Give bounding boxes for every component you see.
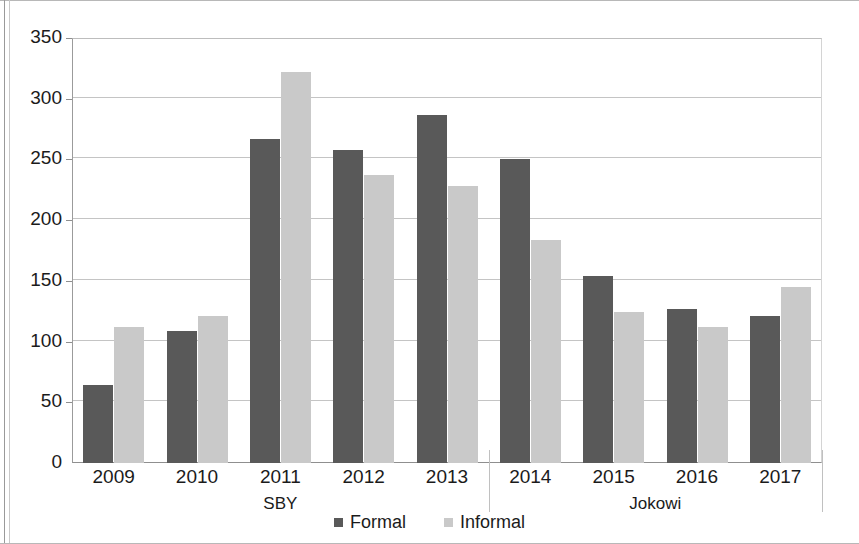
scan-border-left (4, 0, 5, 544)
bar-informal-2012 (364, 175, 394, 463)
bar-formal-2017 (750, 316, 780, 463)
bar-informal-2016 (698, 327, 728, 463)
legend-label-formal: Formal (350, 512, 406, 533)
y-axis-tick-label-350: 350 (8, 26, 62, 48)
y-axis-tick-label-50: 50 (8, 390, 62, 412)
legend-entry-formal: Formal (334, 512, 406, 533)
group-label-jokowi: Jokowi (489, 494, 822, 514)
y-axis-tick-label-100: 100 (8, 330, 62, 352)
group-separator-jokowi (489, 450, 490, 512)
chart-legend: FormalInformal (0, 512, 859, 533)
bar-formal-2014 (500, 159, 530, 463)
x-axis-tick-label-2009: 2009 (72, 466, 155, 488)
x-axis-tick-label-2013: 2013 (405, 466, 488, 488)
bar-formal-2016 (667, 309, 697, 463)
bar-informal-2011 (281, 72, 311, 463)
x-axis-tick-label-2016: 2016 (655, 466, 738, 488)
x-axis-tick-label-2010: 2010 (155, 466, 238, 488)
bars-layer (72, 38, 822, 463)
x-axis-tick-label-2012: 2012 (322, 466, 405, 488)
bar-informal-2017 (781, 287, 811, 463)
bar-formal-2010 (167, 331, 197, 463)
bar-chart-figure: 050100150200250300350 200920102011201220… (0, 0, 859, 544)
group-separator-end (822, 450, 823, 512)
y-axis-tick-label-150: 150 (8, 269, 62, 291)
y-axis-tick-label-300: 300 (8, 87, 62, 109)
bar-formal-2011 (250, 139, 280, 463)
scan-border-top (0, 0, 859, 1)
bar-informal-2015 (614, 312, 644, 463)
bar-formal-2015 (583, 276, 613, 463)
x-axis-tick-label-2011: 2011 (239, 466, 322, 488)
legend-swatch-formal-icon (334, 518, 343, 527)
legend-entry-informal: Informal (444, 512, 525, 533)
bar-formal-2009 (83, 385, 113, 463)
bar-informal-2013 (448, 186, 478, 463)
bar-informal-2010 (198, 316, 228, 463)
x-axis-tick-label-2015: 2015 (572, 466, 655, 488)
y-axis-tick-label-200: 200 (8, 208, 62, 230)
bar-informal-2009 (114, 327, 144, 463)
x-axis-tick-label-2017: 2017 (739, 466, 822, 488)
y-axis-tick-label-250: 250 (8, 147, 62, 169)
bar-formal-2012 (333, 150, 363, 463)
bar-formal-2013 (417, 115, 447, 464)
group-label-sby: SBY (72, 494, 489, 514)
legend-label-informal: Informal (460, 512, 525, 533)
y-axis-tick-label-0: 0 (8, 451, 62, 473)
bar-informal-2014 (531, 240, 561, 463)
x-axis-tick-label-2014: 2014 (489, 466, 572, 488)
legend-swatch-informal-icon (444, 518, 453, 527)
